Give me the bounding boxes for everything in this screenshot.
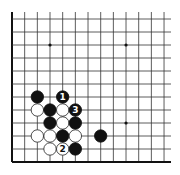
black-stone (69, 117, 81, 129)
white-stone-icon (44, 130, 56, 142)
white-stone (56, 104, 68, 116)
black-stone-icon (56, 130, 68, 142)
black-stone-icon (69, 117, 81, 129)
black-stone (94, 130, 106, 142)
black-stone (69, 143, 81, 155)
white-stone (44, 143, 56, 155)
black-stone (56, 130, 68, 142)
move-number-label: 1 (60, 92, 66, 102)
white-stone (69, 130, 81, 142)
white-stone-icon (56, 104, 68, 116)
white-stone-icon (44, 143, 56, 155)
black-stone-move-1: 1 (56, 91, 68, 103)
black-stone-move-3: 3 (69, 104, 81, 116)
white-stone (44, 130, 56, 142)
white-stone-icon (31, 130, 43, 142)
white-stone-move-2: 2 (56, 143, 68, 155)
white-stone-icon (69, 130, 81, 142)
black-stone (44, 104, 56, 116)
white-stone-icon (56, 117, 68, 129)
move-number-label: 2 (60, 144, 66, 154)
black-stone (44, 117, 56, 129)
white-stone (31, 104, 43, 116)
star-point-icon (124, 121, 127, 124)
white-stone (56, 117, 68, 129)
white-stone (31, 130, 43, 142)
black-stone (31, 91, 43, 103)
star-point-icon (48, 43, 51, 46)
black-stone-icon (31, 91, 43, 103)
black-stone-icon (94, 130, 106, 142)
black-stone-icon (44, 117, 56, 129)
black-stone-icon (69, 143, 81, 155)
move-number-label: 3 (72, 105, 78, 115)
go-board: 132 (0, 0, 180, 175)
white-stone-icon (31, 104, 43, 116)
star-point-icon (124, 43, 127, 46)
black-stone-icon (44, 104, 56, 116)
